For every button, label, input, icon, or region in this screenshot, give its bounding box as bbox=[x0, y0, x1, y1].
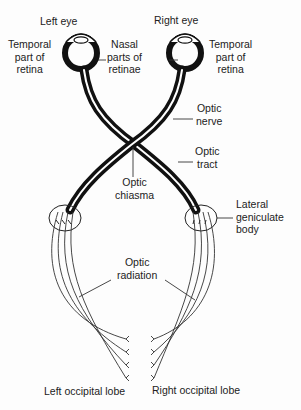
label-right-eye: Right eye bbox=[154, 14, 198, 27]
label-optic-radiation: Optic radiation bbox=[117, 256, 157, 281]
terminal-synapses bbox=[126, 336, 154, 381]
label-left-eye: Left eye bbox=[40, 15, 77, 28]
label-nasal: Nasal parts of retinae bbox=[107, 38, 142, 76]
label-optic-chiasma: Optic chiasma bbox=[115, 176, 154, 201]
label-temporal-right: Temporal part of retina bbox=[209, 38, 252, 76]
label-optic-tract: Optic tract bbox=[195, 145, 220, 170]
label-left-occipital-lobe: Left occipital lobe bbox=[44, 385, 125, 398]
left-eye-icon bbox=[65, 34, 97, 69]
label-optic-nerve: Optic nerve bbox=[196, 102, 222, 127]
optic-radiation-left bbox=[52, 212, 126, 378]
optic-radiation-right bbox=[154, 212, 214, 378]
label-right-occipital-lobe: Right occipital lobe bbox=[152, 384, 240, 397]
right-eye-icon bbox=[169, 34, 201, 69]
visual-pathway-diagram: Left eye Right eye Temporal part of reti… bbox=[0, 0, 301, 410]
label-temporal-left: Temporal part of retina bbox=[8, 38, 51, 76]
label-lateral-geniculate-body: Lateral geniculate body bbox=[236, 198, 284, 236]
